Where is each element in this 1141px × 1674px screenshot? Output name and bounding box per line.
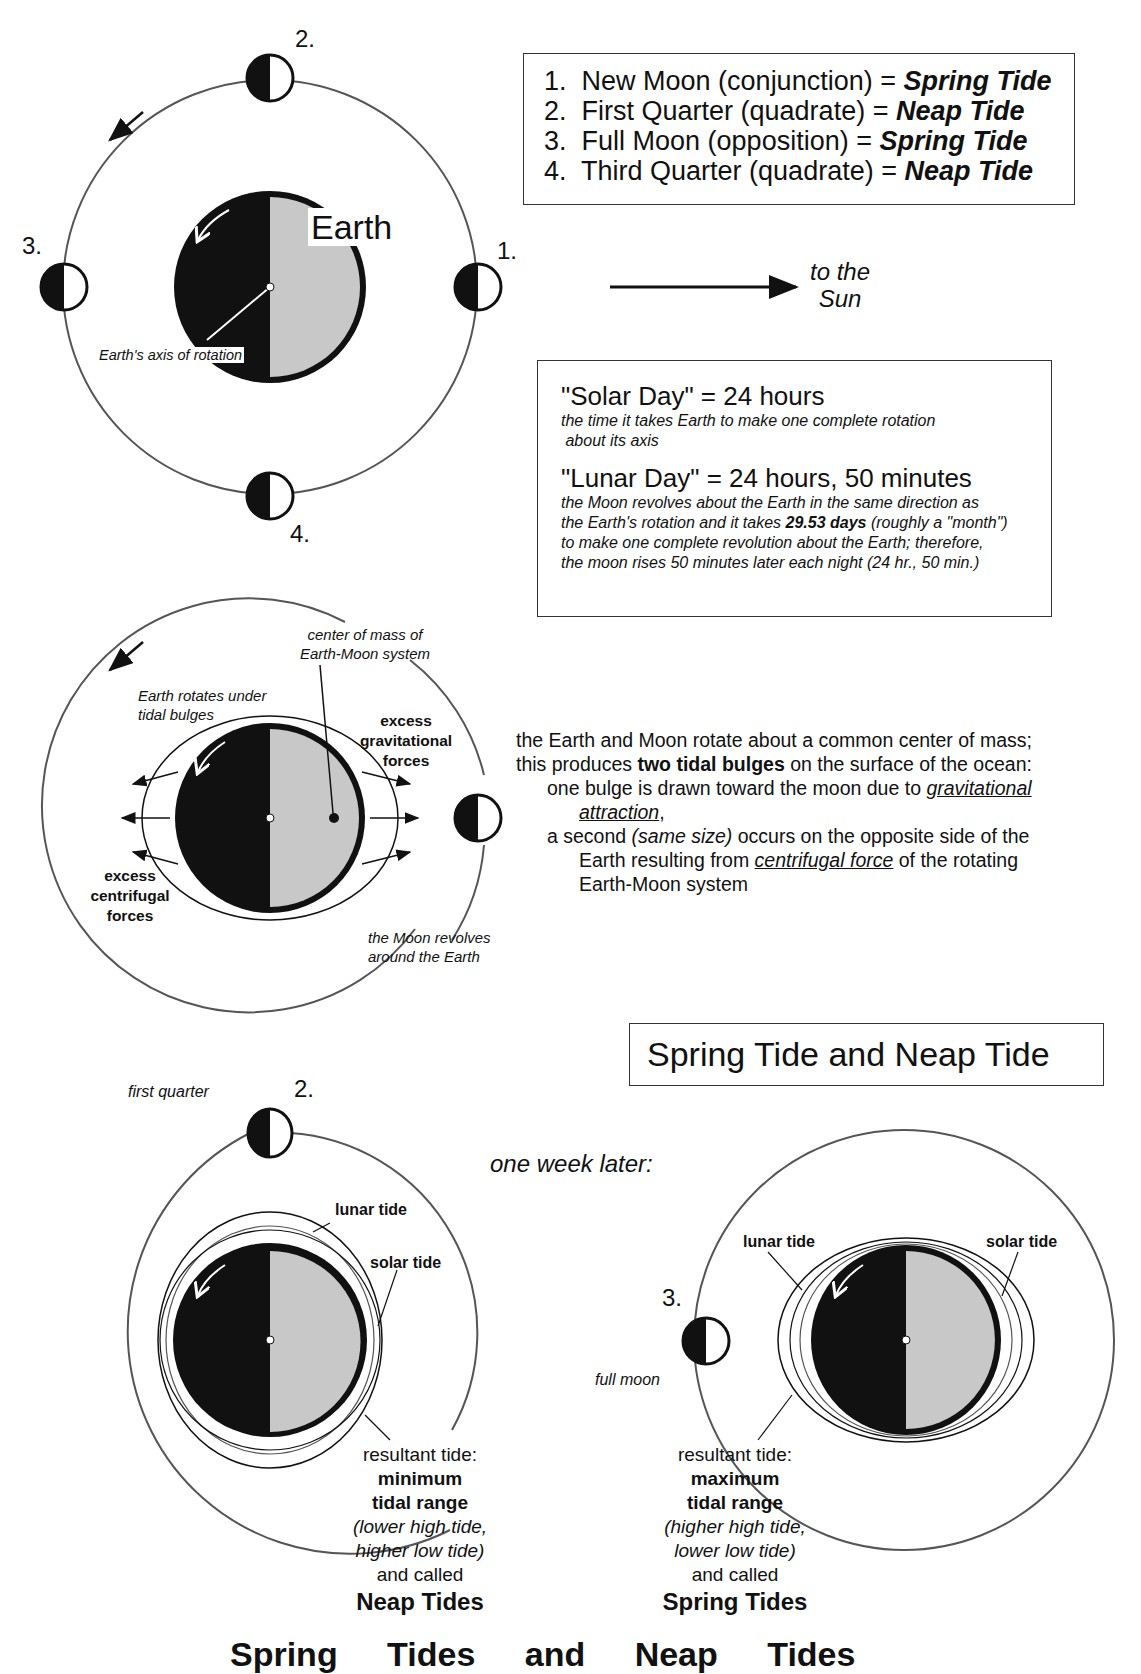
footer-title-clipped: Spring Tides and Neap Tides [230,1634,855,1674]
moon-phase-2-icon [247,55,293,101]
moon-label-3-spring: 3. [662,1284,682,1312]
orbit-direction-arrow-icon [110,642,143,670]
earth-icon [811,1245,1001,1435]
spring-solar-tide-label: solar tide [986,1232,1057,1252]
spring-lunar-tide-label: lunar tide [743,1232,815,1252]
center-of-mass-label: center of mass of Earth-Moon system [290,625,440,663]
neap-tides-title: Neap Tides [340,1587,500,1617]
moon-label-2-neap: 2. [294,1075,314,1103]
earth-icon [173,1243,367,1437]
spring-tides-title: Spring Tides [650,1587,820,1617]
axis-label: Earth's axis of rotation [97,347,244,363]
moon-label-1: 1. [497,237,517,265]
sun-label: to the Sun [800,258,880,312]
excess-centrifugal-label: excess centrifugal forces [90,866,170,926]
one-week-later-label: one week later: [490,1150,653,1178]
spring-resultant-text: resultant tide: maximum tidal range (hig… [650,1443,820,1617]
moon-icon [455,795,501,841]
moon-full-icon [683,1318,729,1364]
earth-label: Earth [308,208,395,246]
moon-phase-3-icon [41,264,87,310]
section-title: Spring Tide and Neap Tide [630,1024,1103,1085]
legend-item: 1. New Moon (conjunction) = Spring Tide [544,66,1074,96]
legend-item: 3. Full Moon (opposition) = Spring Tide [544,126,1074,156]
full-moon-label: full moon [595,1370,660,1389]
excess-gravitational-label: excess gravitational forces [356,711,456,771]
moon-first-quarter-icon [248,1109,292,1157]
moon-phase-legend: 1. New Moon (conjunction) = Spring Tide … [523,53,1075,205]
first-quarter-label: first quarter [128,1082,209,1101]
legend-item: 2. First Quarter (quadrate) = Neap Tide [544,96,1074,126]
solar-lunar-day-box: "Solar Day" = 24 hours the time it takes… [537,360,1052,617]
neap-lunar-tide-label: lunar tide [335,1200,407,1220]
section-title-box: Spring Tide and Neap Tide [629,1023,1104,1086]
earth-rotates-label: Earth rotates under tidal bulges [138,686,266,724]
moon-label-3: 3. [22,232,42,260]
solar-day-title: "Solar Day" = 24 hours [561,381,1051,411]
orbit-direction-arrow-icon [110,112,143,140]
moon-revolves-label: the Moon revolves around the Earth [368,928,491,966]
moon-phase-1-icon [455,264,501,310]
neap-solar-tide-label: solar tide [370,1253,441,1273]
moon-label-2: 2. [295,25,315,53]
moon-phase-4-icon [247,473,293,519]
moon-label-4: 4. [290,520,310,548]
lunar-day-title: "Lunar Day" = 24 hours, 50 minutes [561,463,1051,493]
tidal-bulge-explanation: the Earth and Moon rotate about a common… [516,728,1032,896]
neap-resultant-text: resultant tide: minimum tidal range (low… [340,1443,500,1617]
legend-item: 4. Third Quarter (quadrate) = Neap Tide [544,156,1074,186]
